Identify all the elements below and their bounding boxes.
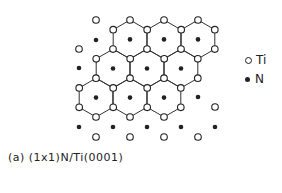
ti-atom	[195, 17, 202, 24]
ti-atom	[110, 46, 117, 53]
ti-atom	[212, 104, 219, 111]
figure-caption: (a) (1x1)N/Ti(0001)	[8, 151, 123, 164]
filled-dot-icon	[245, 77, 250, 82]
n-atom	[145, 125, 150, 130]
ti-atom	[161, 134, 168, 141]
ti-atom	[178, 85, 185, 92]
n-atom	[77, 66, 82, 71]
ti-atom	[127, 134, 134, 141]
n-atom	[179, 66, 184, 71]
ti-atom	[93, 56, 100, 63]
ti-atom	[161, 75, 168, 82]
ti-atom	[110, 26, 117, 33]
ti-atom	[144, 26, 151, 33]
n-atom	[94, 95, 99, 100]
ti-atom	[178, 46, 185, 53]
n-atom	[111, 66, 116, 71]
n-atom	[162, 37, 167, 42]
ti-atom	[212, 46, 219, 53]
ti-atom	[161, 17, 168, 24]
n-atom	[196, 95, 201, 100]
ti-atom	[76, 46, 83, 53]
ti-atom	[144, 104, 151, 111]
ti-atom	[110, 104, 117, 111]
legend-ti-label: Ti	[256, 53, 266, 67]
ti-atom	[161, 56, 168, 63]
ti-atom	[127, 17, 134, 24]
legend-ti: Ti	[245, 53, 266, 67]
ti-atom	[144, 46, 151, 53]
ti-atom	[144, 85, 151, 92]
ti-atom	[178, 26, 185, 33]
ti-atom	[127, 75, 134, 82]
n-atom	[94, 38, 99, 43]
n-atom	[162, 95, 167, 100]
ti-atom	[93, 17, 100, 24]
ti-atom	[127, 56, 134, 63]
n-atom	[196, 37, 201, 42]
open-circle-icon	[245, 57, 252, 64]
ti-atom	[195, 75, 202, 82]
ti-atom	[93, 134, 100, 141]
ti-atom	[178, 104, 185, 111]
ti-atom	[93, 75, 100, 82]
lattice-diagram	[0, 0, 282, 193]
legend-n: N	[245, 72, 264, 86]
ti-atom	[93, 114, 100, 121]
ti-atom	[127, 114, 134, 121]
ti-atom	[76, 85, 83, 92]
n-atom	[128, 37, 133, 42]
n-atom	[179, 125, 184, 130]
n-atom	[128, 95, 133, 100]
ti-atom	[195, 56, 202, 63]
ti-atom	[110, 85, 117, 92]
n-atom	[77, 125, 82, 130]
legend-n-label: N	[255, 72, 264, 86]
ti-atom	[76, 104, 83, 111]
ti-atom	[161, 114, 168, 121]
n-atom	[145, 66, 150, 71]
n-atom	[213, 125, 218, 130]
n-atom	[111, 125, 116, 130]
ti-atom	[212, 26, 219, 33]
ti-atom	[195, 134, 202, 141]
